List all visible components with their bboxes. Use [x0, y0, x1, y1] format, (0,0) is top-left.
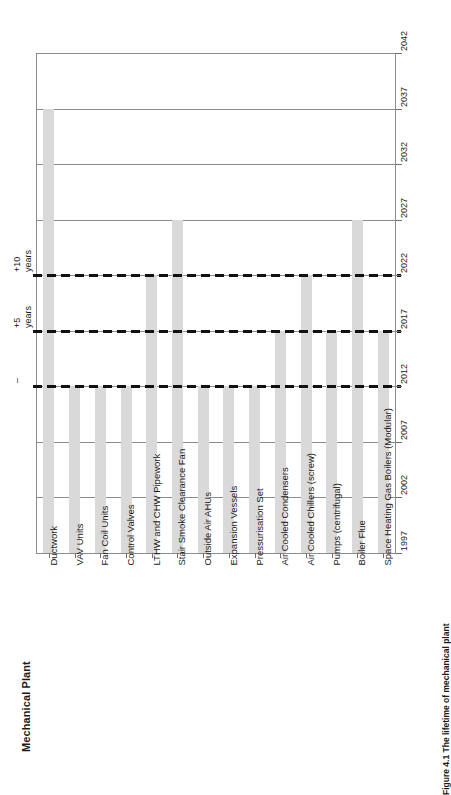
year-tick-2042: 2042 — [396, 53, 397, 54]
chart-plot-area — [36, 53, 396, 553]
reference-annotation-line2: years — [23, 250, 33, 272]
reference-annotation-line2: years — [23, 306, 33, 328]
reference-annotation-2022: +10years — [12, 275, 13, 276]
gridline-2037 — [36, 109, 396, 110]
category-label-text: Stair Smoke Clearance Fan — [176, 449, 187, 566]
category-label-space-heating-gas-boilers-modular: Space Heating Gas Boilers (Modular) — [383, 566, 384, 567]
figure-caption: Figure 4.1 The lifetime of mechanical pl… — [441, 595, 451, 795]
category-label-vav-units: VAV Units — [75, 566, 76, 567]
plot-axis-line-left — [36, 53, 37, 553]
category-label-outside-air-ahus: Outside Air AHUs — [203, 566, 204, 567]
category-label-text: Fan Coil Units — [99, 506, 110, 566]
category-label-air-cooled-condensers: Air Cooled Condensers — [280, 566, 281, 567]
category-label-boiler-flue: Boiler Flue — [357, 566, 358, 567]
year-tick-label: 1997 — [399, 511, 409, 551]
category-label-text: VAV Units — [73, 524, 84, 566]
gridline-2007 — [36, 442, 396, 443]
category-label-expansion-vessels: Expansion Vessels — [229, 566, 230, 567]
year-tick-label: 2037 — [399, 67, 409, 107]
category-label-pressurisation-set: Pressurisation Set — [255, 566, 256, 567]
year-tick-label: 2017 — [399, 289, 409, 329]
page-title: Mechanical Plant — [20, 632, 32, 752]
category-label-text: Expansion Vessels — [227, 486, 238, 566]
year-tick-label: 2027 — [399, 178, 409, 218]
reference-line-2022 — [33, 274, 401, 277]
reference-annotation-2017: +5years — [12, 331, 13, 332]
gridline-1997 — [36, 553, 396, 554]
gridline-2027 — [36, 220, 396, 221]
gridline-2002 — [36, 497, 396, 498]
year-tick-2002: 2002 — [396, 497, 397, 498]
reference-annotation-line1: +5 — [12, 318, 22, 328]
year-tick-label: 2032 — [399, 122, 409, 162]
year-tick-label: 2022 — [399, 233, 409, 273]
category-label-text: Pumps (centrifugal) — [330, 483, 341, 565]
reference-annotation-line1: +10 — [12, 257, 22, 272]
category-label-text: Ductwork — [47, 526, 58, 566]
gridline-2042 — [36, 53, 396, 54]
category-label-text: Boiler Flue — [356, 520, 367, 565]
category-label-text: Air Cooled Condensers — [279, 467, 290, 565]
category-label-air-cooled-chillers-screw: Air Cooled Chillers (screw) — [306, 566, 307, 567]
year-tick-label: 2007 — [399, 400, 409, 440]
year-tick-2022: 2022 — [396, 275, 397, 276]
year-tick-2007: 2007 — [396, 442, 397, 443]
year-tick-label: 2002 — [399, 455, 409, 495]
year-tick-2017: 2017 — [396, 331, 397, 332]
category-label-text: Control Valves — [125, 504, 136, 565]
reference-annotation-2012: – — [12, 386, 13, 387]
category-label-stair-smoke-clearance-fan: Stair Smoke Clearance Fan — [177, 566, 178, 567]
category-label-text: Pressurisation Set — [253, 488, 264, 565]
category-label-fan-coil-units: Fan Coil Units — [100, 566, 101, 567]
year-tick-2012: 2012 — [396, 386, 397, 387]
category-label-text: Space Heating Gas Boilers (Modular) — [382, 408, 393, 565]
year-tick-label: 2042 — [399, 11, 409, 51]
category-label-control-valves: Control Valves — [126, 566, 127, 567]
gridline-2032 — [36, 164, 396, 165]
category-label-ductwork: Ductwork — [49, 566, 50, 567]
year-tick-label: 2012 — [399, 344, 409, 384]
reference-annotation-line1: – — [12, 378, 22, 383]
category-label-pumps-centrifugal: Pumps (centrifugal) — [332, 566, 333, 567]
category-label-lthw-and-chw-pipework: LTHW and CHW Pipework — [152, 566, 153, 567]
year-tick-2037: 2037 — [396, 109, 397, 110]
reference-line-2012 — [33, 385, 401, 388]
category-label-text: Outside Air AHUs — [202, 492, 213, 565]
year-tick-2027: 2027 — [396, 220, 397, 221]
plot-axis-line-right — [395, 53, 396, 553]
reference-line-2017 — [33, 330, 401, 333]
year-tick-1997: 1997 — [396, 553, 397, 554]
category-label-text: Air Cooled Chillers (screw) — [305, 453, 316, 565]
category-label-text: LTHW and CHW Pipework — [150, 454, 161, 566]
year-tick-2032: 2032 — [396, 164, 397, 165]
